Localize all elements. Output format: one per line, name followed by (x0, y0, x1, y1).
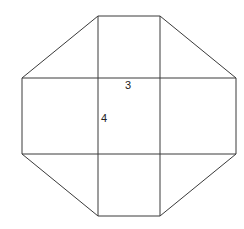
label-top-edge: 3 (125, 79, 131, 91)
diagram-canvas: 3 4 (0, 0, 244, 229)
outer-octagon (22, 16, 236, 216)
label-left-edge: 4 (101, 112, 107, 124)
